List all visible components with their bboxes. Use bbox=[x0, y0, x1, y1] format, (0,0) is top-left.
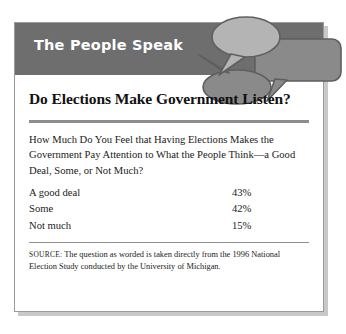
table-row: Some 42% bbox=[29, 201, 309, 217]
figure-header-band: The People Speak bbox=[15, 23, 323, 75]
result-label: Some bbox=[29, 201, 232, 217]
result-value: 42% bbox=[232, 201, 309, 217]
result-label: A good deal bbox=[29, 185, 232, 201]
source-note: SOURCE: The question as worded is taken … bbox=[29, 249, 309, 272]
heading-divider bbox=[29, 120, 309, 123]
result-value: 15% bbox=[232, 217, 309, 233]
survey-question-text: How Much Do You Feel that Having Electio… bbox=[29, 132, 309, 177]
source-label: SOURCE: bbox=[29, 250, 62, 259]
source-divider bbox=[29, 242, 309, 243]
survey-results-table: A good deal 43% Some 42% Not much 15% bbox=[29, 185, 309, 234]
result-label: Not much bbox=[29, 217, 232, 233]
figure-header-title: The People Speak bbox=[34, 37, 183, 53]
source-text: The question as worded is taken directly… bbox=[29, 250, 280, 270]
figure-heading: Do Elections Make Government Listen? bbox=[29, 89, 309, 109]
people-speak-figure-box: The People Speak Do Elections Make Gover… bbox=[14, 22, 324, 312]
result-value: 43% bbox=[232, 185, 309, 201]
table-row: A good deal 43% bbox=[29, 185, 309, 201]
table-row: Not much 15% bbox=[29, 217, 309, 233]
figure-body: Do Elections Make Government Listen? How… bbox=[15, 75, 323, 313]
